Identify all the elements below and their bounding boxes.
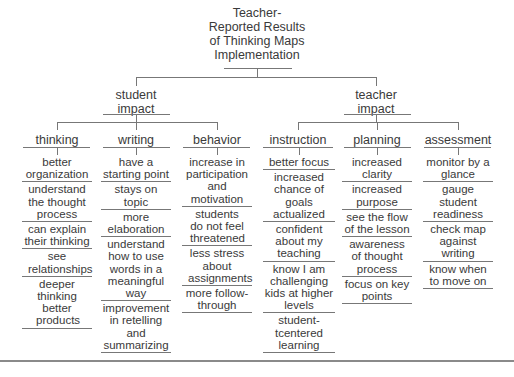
behavior-stem <box>217 122 218 130</box>
root-connector <box>136 77 377 78</box>
list-item: check map against writing <box>423 222 493 262</box>
instruction-item-stem <box>299 148 300 155</box>
planning-item-stem <box>377 148 378 155</box>
list-item: know I am challenging kids at higher lev… <box>263 262 335 314</box>
list-item: student-tcentered learning <box>263 313 335 353</box>
category-assessment: assessment <box>418 133 498 147</box>
list-item: increased chance of goals actualized <box>263 170 335 222</box>
teacher-stem <box>376 77 377 86</box>
instruction-stem <box>298 122 299 130</box>
teacher-impact-underline <box>344 114 411 115</box>
list-item: confident about my teaching <box>263 222 335 262</box>
title-line-3: of Thinking Maps <box>197 34 317 48</box>
title-stem <box>257 68 258 77</box>
diagram-title: Teacher- Reported Results of Thinking Ma… <box>197 6 317 62</box>
student-impact-label: student impact <box>96 88 176 116</box>
teacher-impact-label: teacher impact <box>336 88 416 116</box>
planning-column: increased clarity increased purpose see … <box>342 151 412 304</box>
category-instruction: instruction <box>258 133 338 147</box>
list-item: increased clarity <box>342 155 412 182</box>
list-item: less stress about assignments <box>182 246 252 286</box>
behavior-item-stem <box>217 148 218 155</box>
thinking-column: better organization understand the thoug… <box>22 151 92 329</box>
teacher-impact-stem <box>376 114 377 122</box>
list-item: understand how to use words in a meaning… <box>101 237 171 301</box>
list-item: more elaboration <box>101 210 171 237</box>
student-stem <box>136 77 137 86</box>
list-item: stays on topic <box>101 182 171 209</box>
list-item: see the flow of the lesson <box>342 210 412 237</box>
category-thinking: thinking <box>22 133 92 147</box>
list-item: know when to move on <box>423 262 493 289</box>
list-item: understand the thought process <box>22 182 92 222</box>
title-line-1: Teacher- <box>197 6 317 20</box>
category-planning: planning <box>342 133 412 147</box>
title-underline <box>224 68 292 69</box>
writing-column: have a starting point stays on topic mor… <box>101 151 171 353</box>
writing-stem <box>136 122 137 130</box>
behavior-column: increase in participation and motivation… <box>182 151 252 313</box>
bottom-rule <box>0 360 514 362</box>
list-item: monitor by a glance <box>423 155 493 182</box>
student-categories-connector <box>57 122 218 123</box>
student-impact-line-1: student <box>96 88 176 102</box>
list-item: improvement in retelling and summarizing <box>101 301 171 353</box>
list-item: more follow-through <box>182 286 252 313</box>
list-item: awareness of thought process <box>342 237 412 277</box>
planning-stem <box>377 122 378 130</box>
title-line-4: Implementation <box>197 48 317 62</box>
instruction-underline <box>263 147 333 148</box>
list-item: focus on key points <box>342 277 412 304</box>
list-item: gauge student readiness <box>423 182 493 222</box>
list-item: can explain their thinking <box>22 222 92 249</box>
writing-item-stem <box>136 148 137 155</box>
list-item: deeper thinking better products <box>22 277 92 329</box>
list-item: have a starting point <box>101 155 171 182</box>
title-line-2: Reported Results <box>197 20 317 34</box>
instruction-column: better focus increased chance of goals a… <box>263 151 335 353</box>
teacher-impact-line-1: teacher <box>336 88 416 102</box>
list-item: increased purpose <box>342 182 412 209</box>
list-item: increase in participation and motivation <box>182 155 252 207</box>
list-item: see relationships <box>22 249 92 276</box>
student-impact-stem <box>136 114 137 122</box>
list-item: better focus <box>263 155 335 170</box>
category-writing: writing <box>101 133 171 147</box>
assessment-column: monitor by a glance gauge student readin… <box>423 151 493 289</box>
assessment-item-stem <box>458 148 459 155</box>
teacher-categories-connector <box>298 122 459 123</box>
thinking-item-stem <box>57 148 58 155</box>
thinking-stem <box>57 122 58 130</box>
list-item: better organization <box>22 155 92 182</box>
list-item: students do not feel threatened <box>182 207 252 247</box>
assessment-stem <box>458 122 459 130</box>
category-behavior: behavior <box>182 133 252 147</box>
